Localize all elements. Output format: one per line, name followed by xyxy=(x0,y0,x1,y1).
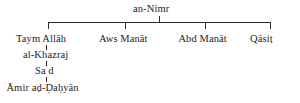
node-an-nimr: an-Nimr xyxy=(133,4,169,15)
node-abd-manat-text: Abd Manāt xyxy=(178,33,226,44)
sibling-bar-left-endcap xyxy=(48,22,49,29)
genealogy-diagram: an-Nimr Taym Allāh Aws Manāt ʿAbd Manāt … xyxy=(0,0,300,103)
node-aws-manat: Aws Manāt xyxy=(99,34,148,45)
node-sad: Saʿd xyxy=(35,66,54,77)
node-abd-manat: ʿAbd Manāt xyxy=(176,34,227,45)
sibling-tick-aws-manat xyxy=(125,22,126,29)
node-taym-allah: Taym Allāh xyxy=(16,34,66,45)
node-amir-ad-dahyan: ʿĀmir aḍ-Ḍaḥyān xyxy=(4,83,79,94)
sibling-bar-right-endcap xyxy=(270,22,271,29)
node-qasit: Qāsiṭ xyxy=(250,34,273,45)
node-sad-part1: Sa xyxy=(35,65,46,76)
sibling-bar xyxy=(48,22,271,23)
node-al-khazraj: al-Khazraj xyxy=(23,50,68,61)
node-sad-part2: d xyxy=(48,65,53,76)
node-amir-ad-dahyan-text: Āmir aḍ-Ḍaḥyān xyxy=(6,82,78,93)
sibling-tick-abd-manat xyxy=(205,22,206,29)
